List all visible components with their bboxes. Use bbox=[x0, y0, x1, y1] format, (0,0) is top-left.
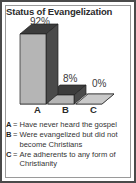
data-label-b: 8% bbox=[63, 73, 77, 84]
bar-a-side bbox=[46, 24, 58, 104]
legend-text-c: Are adherents to any form of Christianit… bbox=[19, 150, 128, 169]
legend-key-c: C bbox=[6, 150, 13, 160]
category-label-c: C bbox=[90, 104, 97, 115]
category-label-a: A bbox=[34, 104, 41, 115]
bar-chart-graphic bbox=[2, 16, 128, 116]
legend-item-b: B = Were evangelized but did not become … bbox=[6, 130, 128, 149]
data-label-c: 0% bbox=[92, 78, 106, 89]
legend-text-b: Were evangelized but did not become Chri… bbox=[19, 130, 128, 149]
category-label-b: B bbox=[62, 104, 69, 115]
plot-area: 92% 8% 0% A B C bbox=[2, 16, 128, 116]
data-label-a: 92% bbox=[30, 16, 50, 27]
legend-item-a: A = Have never heard the gospel bbox=[6, 120, 128, 130]
legend-key-b: B bbox=[6, 130, 13, 140]
bar-a-front bbox=[20, 34, 46, 104]
legend-key-a: A bbox=[6, 120, 13, 130]
legend-item-c: C = Are adherents to any form of Christi… bbox=[6, 150, 128, 169]
legend-text-a: Have never heard the gospel bbox=[19, 120, 128, 130]
chart-figure: Status of Evangelization 92% 8% 0% A B C… bbox=[0, 0, 136, 183]
chart-legend: A = Have never heard the gospel B = Were… bbox=[6, 120, 128, 169]
